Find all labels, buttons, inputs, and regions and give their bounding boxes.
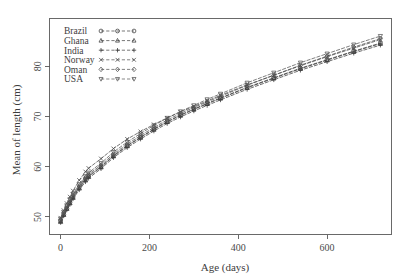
legend-item-symbol <box>99 67 136 72</box>
series-line <box>61 44 381 222</box>
series-oman <box>59 36 383 222</box>
series-line <box>61 39 381 220</box>
y-axis-title: Mean of length (cm) <box>10 84 23 175</box>
x-tick-label: 0 <box>58 242 63 253</box>
legend-item-symbol <box>99 38 136 42</box>
legend-item-label: Oman <box>64 65 87 75</box>
series-markers <box>59 41 383 223</box>
series-markers <box>59 41 383 223</box>
legend-item-symbol <box>99 29 136 33</box>
series-norway <box>59 38 383 220</box>
legend-item-norway[interactable]: Norway <box>64 55 136 65</box>
series-markers <box>59 34 383 221</box>
series-brazil <box>59 41 383 223</box>
axis-tick-labels: 020040060050607080 <box>32 61 335 252</box>
legend-item-label: USA <box>64 74 83 84</box>
axis-ticks <box>45 66 327 239</box>
legend-item-brazil[interactable]: Brazil <box>64 26 136 36</box>
x-tick-label: 600 <box>320 242 335 253</box>
y-tick-label: 70 <box>32 111 43 121</box>
legend-item-ghana[interactable]: Ghana <box>64 36 136 46</box>
data-series-layer <box>58 34 382 224</box>
legend-item-symbol <box>99 48 136 52</box>
legend-item-symbol <box>99 77 136 81</box>
x-axis-title: Age (days) <box>201 261 250 274</box>
x-tick-label: 400 <box>231 242 246 253</box>
legend-item-usa[interactable]: USA <box>64 74 136 84</box>
legend-item-label: Norway <box>64 55 95 65</box>
series-markers <box>59 38 383 220</box>
series-markers <box>58 43 382 225</box>
legend-item-india[interactable]: India <box>64 46 136 56</box>
y-tick-label: 80 <box>32 61 43 71</box>
legend-item-symbol <box>99 58 136 62</box>
series-line <box>61 36 381 219</box>
series-line <box>61 45 381 222</box>
growth-chart-figure: 020040060050607080 BrazilGhanaIndiaNorwa… <box>0 0 406 280</box>
legend-item-label: India <box>64 46 84 56</box>
series-markers <box>59 36 383 222</box>
legend-item-label: Brazil <box>64 26 88 36</box>
y-tick-label: 50 <box>32 212 43 222</box>
series-india <box>58 43 382 225</box>
series-line <box>61 40 381 218</box>
series-ghana <box>59 41 383 223</box>
legend-item-label: Ghana <box>64 36 90 46</box>
legend-item-oman[interactable]: Oman <box>64 65 136 75</box>
series-usa <box>59 34 383 221</box>
y-tick-label: 60 <box>32 162 43 172</box>
chart-legend: BrazilGhanaIndiaNorwayOmanUSA <box>64 26 136 84</box>
series-line <box>61 43 381 221</box>
x-tick-label: 200 <box>142 242 157 253</box>
chart-canvas: 020040060050607080 BrazilGhanaIndiaNorwa… <box>0 0 406 280</box>
